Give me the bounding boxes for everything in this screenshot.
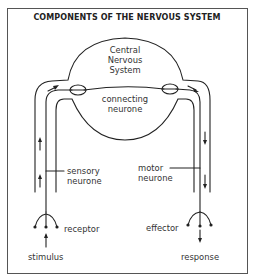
response-label: response: [181, 252, 219, 262]
motor-neurone-label: motor neurone: [138, 163, 173, 183]
effector-dot: [186, 223, 189, 226]
arrow-right-icon: [193, 88, 199, 92]
connecting-neurone-line: [84, 87, 164, 90]
response-arrow-icon: [198, 238, 202, 243]
receptor-label: receptor: [64, 224, 99, 234]
sensory-neurone-label: sensory neurone: [67, 166, 102, 186]
motor-neurone-line: [176, 89, 200, 212]
receptor-dot: [55, 225, 58, 228]
effector-label: effector: [146, 223, 179, 233]
arrow-up-icon: [38, 174, 42, 179]
sensory-neurone-line: [46, 90, 72, 212]
arrow-up-icon: [38, 137, 42, 142]
arrow-right-icon: [53, 85, 59, 90]
cns-label: Central Nervous System: [95, 45, 155, 75]
receptor-dot: [44, 225, 47, 228]
arrow-down-icon: [203, 140, 207, 145]
arrow-down-icon: [203, 184, 207, 189]
effector-dot: [209, 223, 212, 226]
connecting-neurone-label: connecting neurone: [90, 94, 160, 114]
receptor-dot: [33, 225, 36, 228]
stimulus-arrow-icon: [44, 233, 48, 238]
effector-dot: [198, 224, 201, 227]
stimulus-label: stimulus: [28, 252, 63, 262]
nervous-system-diagram: [0, 0, 254, 279]
